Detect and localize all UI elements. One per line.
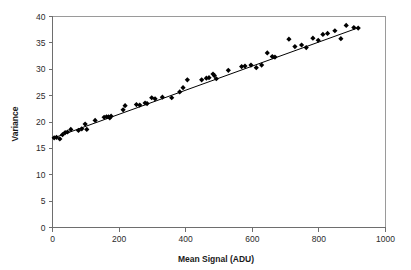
y-tick-label: 30 bbox=[36, 64, 46, 74]
y-tick-label: 10 bbox=[36, 170, 46, 180]
scatter-plot: 02004006008001000 0510152025303540 Mean … bbox=[0, 0, 411, 270]
x-axis-title: Mean Signal (ADU) bbox=[178, 254, 254, 264]
x-tick-label: 1000 bbox=[376, 234, 395, 244]
x-tick-label: 400 bbox=[179, 234, 193, 244]
x-tick-label: 600 bbox=[245, 234, 259, 244]
y-tick-label: 40 bbox=[36, 12, 46, 22]
y-tick-label: 0 bbox=[41, 223, 46, 233]
x-tick-label: 200 bbox=[112, 234, 126, 244]
y-tick-label: 35 bbox=[36, 38, 46, 48]
y-tick-label: 20 bbox=[36, 117, 46, 127]
x-tick-label: 0 bbox=[50, 234, 55, 244]
y-tick-label: 15 bbox=[36, 143, 46, 153]
x-tick-label: 800 bbox=[312, 234, 326, 244]
y-tick-label: 5 bbox=[41, 196, 46, 206]
chart-figure: 02004006008001000 0510152025303540 Mean … bbox=[0, 0, 411, 270]
y-axis-title: Variance bbox=[10, 106, 20, 141]
y-tick-label: 25 bbox=[36, 91, 46, 101]
